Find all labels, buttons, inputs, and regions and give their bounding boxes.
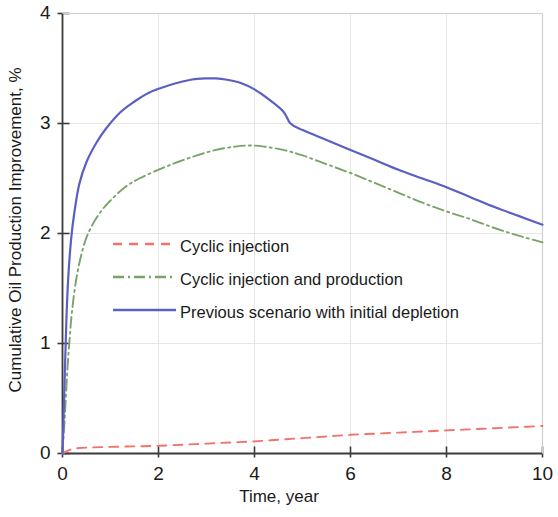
y-tick-label: 1 bbox=[21, 332, 51, 354]
x-tick-label: 0 bbox=[43, 463, 83, 485]
y-tick-label: 3 bbox=[21, 112, 51, 134]
curve-series-1 bbox=[63, 146, 543, 454]
x-axis-title: Time, year bbox=[0, 487, 558, 507]
chart-figure: Cumulative Oil Production Improvement, %… bbox=[0, 0, 558, 517]
y-tick-label: 4 bbox=[21, 2, 51, 24]
y-tick-label: 0 bbox=[21, 442, 51, 464]
x-tick-label: 6 bbox=[331, 463, 371, 485]
legend-label-previous-scenario-with-initial-depletion: Previous scenario with initial depletion bbox=[180, 303, 459, 322]
x-tick-label: 8 bbox=[427, 463, 467, 485]
legend-label-cyclic-injection: Cyclic injection bbox=[180, 237, 289, 256]
plot-area bbox=[0, 0, 558, 517]
x-tick-label: 2 bbox=[139, 463, 179, 485]
tick-marks bbox=[58, 14, 543, 458]
x-tick-label: 4 bbox=[235, 463, 275, 485]
curve-series-0 bbox=[63, 426, 543, 454]
y-tick-label: 2 bbox=[21, 222, 51, 244]
x-tick-label: 10 bbox=[523, 463, 558, 485]
gridlines bbox=[63, 14, 543, 454]
data-curves bbox=[63, 78, 543, 453]
legend-line-samples bbox=[113, 244, 176, 310]
legend-label-cyclic-injection-and-production: Cyclic injection and production bbox=[180, 270, 403, 289]
curve-series-2 bbox=[63, 78, 543, 453]
